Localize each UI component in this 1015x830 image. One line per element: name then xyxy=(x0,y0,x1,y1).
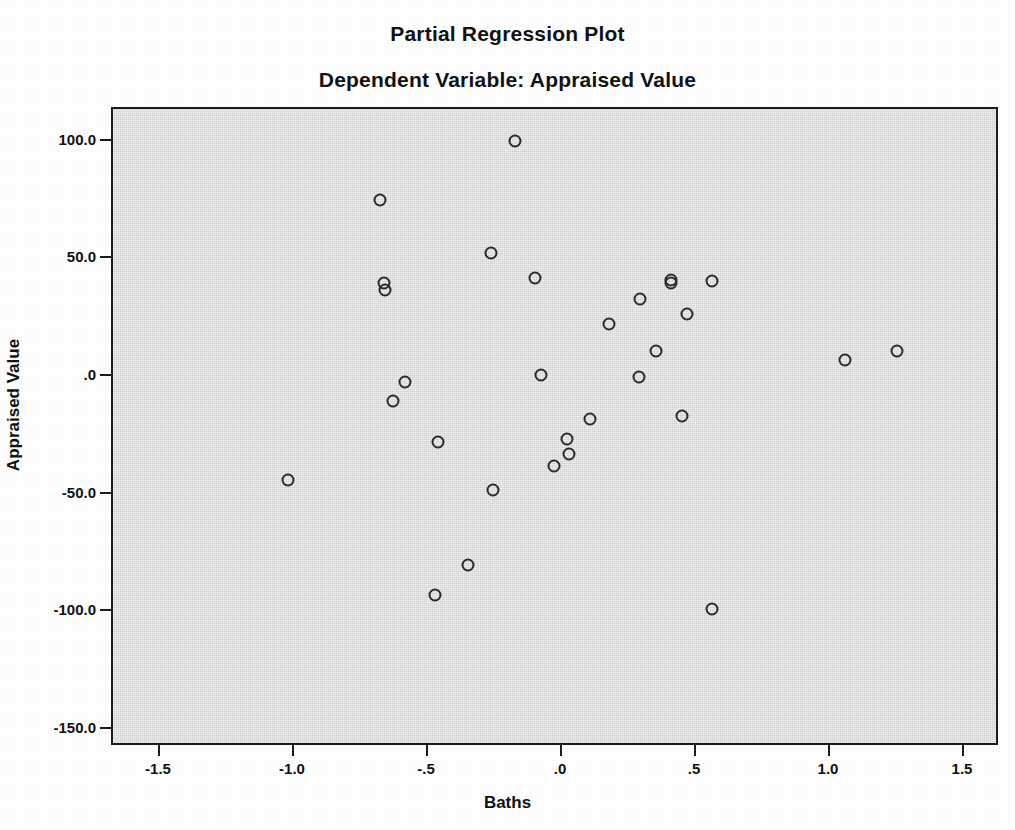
scatter-point xyxy=(386,394,399,407)
scatter-point xyxy=(379,283,392,296)
scatter-point xyxy=(431,436,444,449)
scatter-point xyxy=(602,318,615,331)
y-axis-tick xyxy=(100,492,111,494)
x-axis-tick xyxy=(158,745,160,756)
y-axis-tick xyxy=(100,256,111,258)
scatter-point xyxy=(535,369,548,382)
scatter-point xyxy=(891,345,904,358)
scatter-point xyxy=(665,273,678,286)
chart-title: Partial Regression Plot xyxy=(0,22,1015,46)
y-axis-tick xyxy=(100,139,111,141)
y-axis-tick-label: 100.0 xyxy=(58,130,96,147)
scatter-point xyxy=(561,433,574,446)
x-axis-tick-label: .0 xyxy=(554,760,567,777)
x-axis-tick-label: -1.5 xyxy=(145,760,171,777)
x-axis-title: Baths xyxy=(0,793,1015,813)
scatter-point xyxy=(706,274,719,287)
chart-subtitle: Dependent Variable: Appraised Value xyxy=(0,68,1015,92)
y-axis-tick-label: .0 xyxy=(83,366,96,383)
scatter-point xyxy=(680,307,693,320)
scatter-point xyxy=(839,354,852,367)
scatter-point xyxy=(632,370,645,383)
x-axis-tick xyxy=(426,745,428,756)
scatter-point xyxy=(583,413,596,426)
x-axis-tick xyxy=(560,745,562,756)
x-axis-tick xyxy=(292,745,294,756)
x-axis-tick-label: -1.0 xyxy=(279,760,305,777)
x-axis-tick xyxy=(694,745,696,756)
scatter-point xyxy=(398,376,411,389)
x-axis-tick-label: -.5 xyxy=(417,760,435,777)
scatter-point xyxy=(633,292,646,305)
scatter-point xyxy=(676,409,689,422)
y-axis-title: Appraised Value xyxy=(4,305,24,505)
x-axis-tick-label: .5 xyxy=(688,760,701,777)
scatter-point xyxy=(562,448,575,461)
y-axis-tick-label: -100.0 xyxy=(53,601,96,618)
scatter-point xyxy=(706,603,719,616)
scatter-point xyxy=(547,460,560,473)
x-axis-tick xyxy=(828,745,830,756)
scatter-point xyxy=(509,134,522,147)
x-axis-tick-label: 1.5 xyxy=(952,760,973,777)
scatter-point xyxy=(428,589,441,602)
plot-area xyxy=(111,107,998,745)
y-axis-tick-label: -50.0 xyxy=(62,483,96,500)
scatter-point xyxy=(528,271,541,284)
plot-texture xyxy=(113,109,996,743)
scatter-point xyxy=(374,193,387,206)
y-axis-tick xyxy=(100,727,111,729)
y-axis-tick xyxy=(100,374,111,376)
x-axis-tick-label: 1.0 xyxy=(818,760,839,777)
scatter-point xyxy=(650,345,663,358)
scatter-point xyxy=(461,559,474,572)
x-axis-tick xyxy=(962,745,964,756)
y-axis-tick-label: -150.0 xyxy=(53,718,96,735)
scatter-point xyxy=(487,484,500,497)
scatter-point xyxy=(484,246,497,259)
y-axis-tick xyxy=(100,609,111,611)
scatter-point xyxy=(282,474,295,487)
partial-regression-figure: Partial Regression Plot Dependent Variab… xyxy=(0,0,1015,830)
y-axis-tick-label: 50.0 xyxy=(67,248,96,265)
